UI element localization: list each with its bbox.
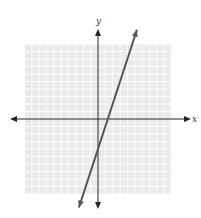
x-axis-label: x [192,114,197,124]
x-axis-right-arrow-icon [184,116,191,122]
series-arrow-down-icon [78,200,84,208]
series-arrow-up-icon [132,30,138,38]
y-axis-up-arrow-icon [95,29,101,36]
y-axis-down-arrow-icon [95,202,101,209]
y-axis-label: y [95,16,102,26]
x-axis-left-arrow-icon [10,116,17,122]
coordinate-plane: x y [0,0,201,218]
